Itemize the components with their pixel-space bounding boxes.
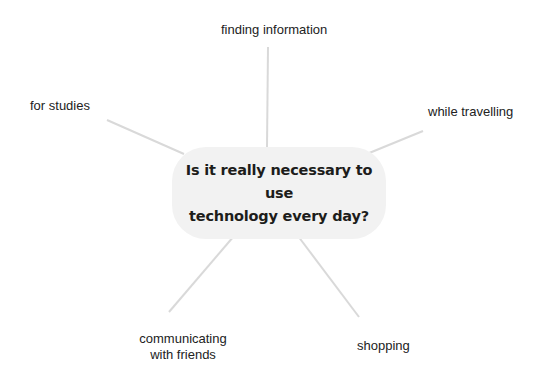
link-finding-information — [267, 47, 268, 147]
central-topic-text: Is it really necessary to use technology… — [179, 159, 379, 228]
branch-for-studies: for studies — [30, 98, 90, 114]
branch-communicating-line-1: communicating — [133, 331, 233, 347]
central-topic-bubble: Is it really necessary to use technology… — [172, 147, 386, 239]
branch-shopping: shopping — [357, 338, 410, 354]
link-shopping — [298, 236, 359, 317]
branch-finding-information: finding information — [221, 22, 327, 38]
branch-communicating-line-2: with friends — [133, 347, 233, 363]
link-for-studies — [107, 120, 184, 154]
branch-while-travelling: while travelling — [428, 104, 513, 120]
link-communicating — [169, 236, 234, 312]
central-topic-line-2: technology every day? — [179, 205, 379, 228]
central-topic-line-1: Is it really necessary to use — [179, 159, 379, 205]
branch-communicating-with-friends: communicating with friends — [133, 331, 233, 363]
